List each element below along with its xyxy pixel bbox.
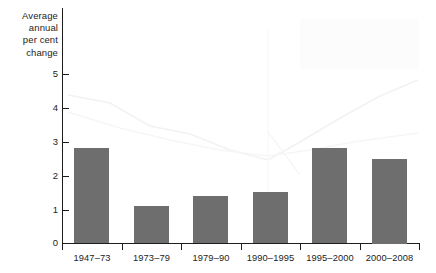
x-tick-5 <box>360 244 361 250</box>
y-tick-label-0: 0 <box>6 238 58 248</box>
bar-1995-2000 <box>312 148 347 243</box>
x-tick-label-1995-2000: 1995–2000 <box>300 253 360 263</box>
x-tick-3 <box>241 244 242 250</box>
x-tick-6 <box>419 244 420 250</box>
y-axis-line <box>62 8 63 244</box>
y-tick-4 <box>63 108 69 109</box>
x-tick-label-1947-73: 1947–73 <box>62 253 122 263</box>
x-tick-1 <box>122 244 123 250</box>
y-tick-2 <box>63 176 69 177</box>
x-tick-label-1990-1995: 1990–1995 <box>241 253 300 263</box>
y-tick-1 <box>63 210 69 211</box>
y-tick-5 <box>63 74 69 75</box>
y-tick-0 <box>63 243 69 244</box>
bar-1947-73 <box>74 148 109 243</box>
x-tick-label-1979-90: 1979–90 <box>181 253 241 263</box>
y-axis-title: Average annual per cent change <box>6 10 58 59</box>
x-tick-label-1973-79: 1973–79 <box>122 253 181 263</box>
y-tick-label-5: 5 <box>6 69 58 79</box>
bar-2000-2008 <box>372 159 407 244</box>
bar-1979-90 <box>193 196 228 243</box>
x-tick-0 <box>62 244 63 250</box>
x-tick-label-2000-2008: 2000–2008 <box>360 253 419 263</box>
y-axis-title-line-2: annual <box>6 22 58 34</box>
x-tick-2 <box>181 244 182 250</box>
y-axis-title-line-3: per cent <box>6 34 58 46</box>
y-tick-3 <box>63 142 69 143</box>
y-axis-title-line-4: change <box>6 47 58 59</box>
y-tick-label-4: 4 <box>6 103 58 113</box>
bar-chart: Average annual per cent change 5 4 3 2 1… <box>0 0 436 273</box>
y-tick-label-3: 3 <box>6 137 58 147</box>
y-tick-label-2: 2 <box>6 171 58 181</box>
x-tick-4 <box>300 244 301 250</box>
y-axis-title-line-1: Average <box>6 10 58 22</box>
bar-1973-79 <box>134 206 169 243</box>
y-tick-label-1: 1 <box>6 205 58 215</box>
bar-1990-1995 <box>253 192 288 243</box>
